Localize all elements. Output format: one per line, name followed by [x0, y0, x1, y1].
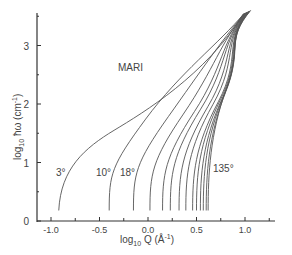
chart-svg: 0123-1.0-0.50.00.51.0 MARI 3° 10° 18° 13…	[0, 0, 292, 255]
curve-12	[203, 11, 249, 211]
x-axis-label-var: Q (Å	[141, 233, 165, 245]
axes: 0123-1.0-0.50.00.51.0	[23, 13, 275, 235]
chart-container: 0123-1.0-0.50.00.51.0 MARI 3° 10° 18° 13…	[0, 0, 292, 255]
y-axis-label-close: )	[12, 94, 23, 97]
x-tick-label: -1.0	[43, 225, 59, 235]
curve-3	[133, 13, 244, 210]
curves	[59, 10, 251, 210]
x-tick-label: 0.5	[190, 225, 203, 235]
curve-7	[179, 12, 247, 210]
x-tick-label: -0.5	[92, 225, 108, 235]
x-axis-label-close: )	[171, 234, 174, 245]
x-axis-label-log: log	[120, 234, 133, 245]
x-axis-label-sub: 10	[133, 240, 141, 247]
curve-2	[109, 13, 244, 210]
y-axis-label-var: ħω (cm	[12, 103, 23, 139]
y-tick-label: 1	[23, 158, 29, 169]
y-axis-label-sub: 10	[18, 139, 25, 147]
curve-11	[200, 11, 249, 210]
curve-label-3: 3°	[56, 167, 66, 178]
y-axis-label-log: log	[12, 147, 23, 160]
curve-label-135: 135°	[213, 163, 234, 174]
x-tick-label: 1.0	[239, 225, 252, 235]
curve-label-10: 10°	[96, 167, 111, 178]
curve-label-18: 18°	[120, 167, 135, 178]
y-tick-label: 2	[23, 99, 29, 110]
y-tick-label: 0	[23, 216, 29, 227]
y-tick-label: 3	[23, 41, 29, 52]
y-axis-label: log10 ħω (cm-1)	[11, 94, 25, 160]
x-axis-label: log10 Q (Å-1)	[120, 233, 174, 247]
instrument-annotation: MARI	[118, 62, 143, 73]
